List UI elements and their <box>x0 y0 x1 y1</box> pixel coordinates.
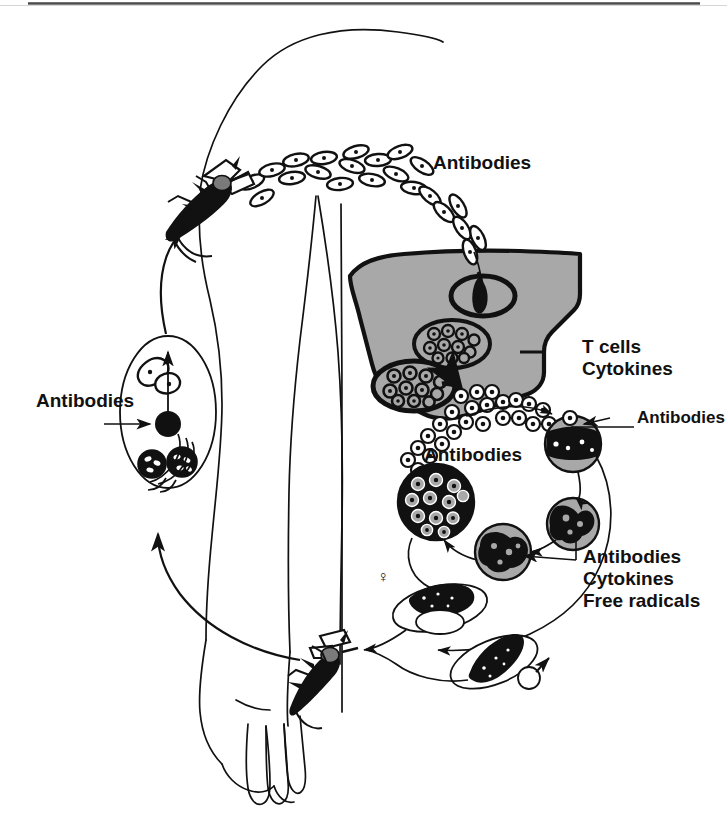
erythrocyte-mature-schizont-bursting <box>398 464 474 540</box>
label-female-gametocyte-symbol: ♀ <box>377 568 389 587</box>
arrow-gametocyte-to-mosquito <box>364 630 406 650</box>
gametocyte-female-cell <box>388 577 491 640</box>
label-antibodies-top: Antibodies <box>433 152 531 174</box>
oocyst <box>155 411 181 437</box>
mosquito-bottom-feeding <box>288 630 358 728</box>
mosquito-top-injecting <box>166 156 254 262</box>
label-antibodies-middle: Antibodies <box>424 444 522 466</box>
label-antibodies-right: Antibodies <box>637 408 725 428</box>
mosquito-midgut-oval <box>120 336 216 492</box>
gametocyte-male-cell <box>443 624 545 699</box>
erythrocyte-trophozoite <box>547 498 599 550</box>
leader-effectors <box>524 556 576 560</box>
arrow-bloodmeal-to-midgut <box>158 534 300 660</box>
label-effectors-antibodies: Antibodies <box>583 546 681 568</box>
label-effectors-cytokines: Cytokines <box>583 568 674 590</box>
label-cytokines: Cytokines <box>582 358 673 380</box>
label-antibodies-left: Antibodies <box>36 390 134 412</box>
erythrocyte-schizont <box>475 524 531 580</box>
male-symbol-arrow <box>536 658 549 672</box>
label-t-cells: T cells <box>582 336 641 358</box>
figure-canvas: Antibodies Antibodies Antibodies Antibod… <box>0 0 727 814</box>
label-effectors-free-radicals: Free radicals <box>583 590 700 612</box>
